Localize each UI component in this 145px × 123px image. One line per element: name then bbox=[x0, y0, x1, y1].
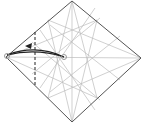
crease-line bbox=[72, 1, 97, 98]
origami-diagram bbox=[0, 0, 145, 123]
crease-line bbox=[50, 36, 120, 92]
crease-line bbox=[6, 57, 141, 58]
crease-line bbox=[48, 20, 141, 58]
crease-line bbox=[6, 57, 97, 98]
crease-line bbox=[48, 1, 72, 98]
crease-lines bbox=[6, 1, 141, 122]
paper-outline bbox=[6, 1, 141, 122]
